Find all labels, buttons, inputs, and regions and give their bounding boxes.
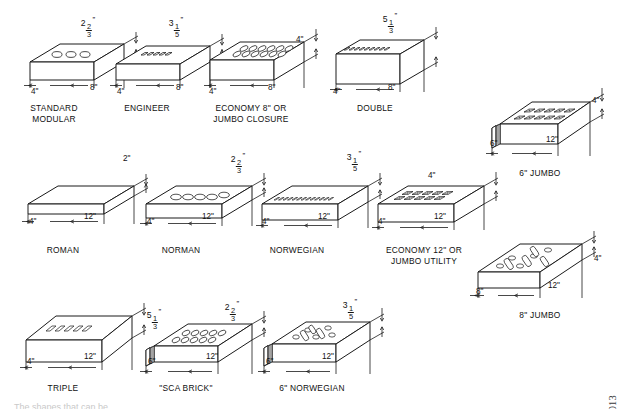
dim-triple-length: 12" xyxy=(84,353,96,361)
dim-economy-8-length: 8" xyxy=(268,84,275,92)
dim-sca-brick-height: 223” xyxy=(225,300,239,323)
dim-6-norwegian-depth: 6" xyxy=(266,358,273,366)
dim-6-jumbo-depth: 6" xyxy=(490,140,497,148)
dim-standard-modular-length: 8" xyxy=(90,84,97,92)
brick-types-figure: 223” 4" 8" STANDARD MODULAR xyxy=(0,0,624,409)
dim-double-depth: 4" xyxy=(333,88,340,96)
dim-roman-length: 12" xyxy=(84,213,96,221)
cutoff-body-text: The shapes that can be xyxy=(14,402,108,409)
dim-engineer-height: 315” xyxy=(169,16,183,39)
dim-roman-depth: 4" xyxy=(29,218,36,226)
caption-economy-8-jumbo-closure: ECONOMY 8" OR JUMBO CLOSURE xyxy=(186,103,316,125)
dim-6-norwegian-length: 12" xyxy=(322,353,334,361)
caption-norwegian: NORWEGIAN xyxy=(237,245,357,256)
dim-engineer-length: 8" xyxy=(176,84,183,92)
dim-economy-12-length: 12" xyxy=(434,213,446,221)
dim-double-length: 8" xyxy=(388,84,395,92)
dim-8-jumbo-length: 12" xyxy=(548,282,560,290)
caption-triple: TRIPLE xyxy=(8,383,118,394)
dim-norman-depth: 4" xyxy=(147,218,154,226)
dim-8-jumbo-depth: 8" xyxy=(476,288,483,296)
caption-roman: ROMAN xyxy=(8,245,118,256)
dim-norman-length: 12" xyxy=(202,213,214,221)
dim-standard-modular-depth: 4" xyxy=(31,88,38,96)
dim-economy-8-depth: 4" xyxy=(209,88,216,96)
brick-8-jumbo xyxy=(468,230,608,306)
dim-economy-8-height: 4" xyxy=(296,36,303,44)
dim-norwegian-depth: 4" xyxy=(262,218,269,226)
caption-6-norwegian: 6" NORWEGIAN xyxy=(252,383,372,394)
dim-norwegian-height: 315” xyxy=(347,150,361,173)
copyright-notice: © Cengage Learning 2013 xyxy=(600,231,620,401)
dim-6-jumbo-length: 12" xyxy=(546,136,558,144)
dim-double-height: 513” xyxy=(383,12,397,35)
dim-norwegian-length: 12" xyxy=(318,213,330,221)
dim-roman-height: 2" xyxy=(123,155,130,163)
dim-sca-brick-depth: 6" xyxy=(148,358,155,366)
dim-6-norwegian-height: 315” xyxy=(343,298,357,321)
caption-sca-brick: "SCA BRICK" xyxy=(131,383,241,394)
dim-economy-12-height: 4" xyxy=(428,172,435,180)
dim-standard-modular-height: 223” xyxy=(81,16,95,39)
dim-sca-brick-length: 12" xyxy=(206,353,218,361)
caption-8-jumbo: 8" JUMBO xyxy=(485,310,595,321)
brick-roman xyxy=(24,170,160,232)
brick-6-norwegian xyxy=(258,302,398,376)
dim-6-jumbo-height: 4" xyxy=(592,97,599,105)
dim-triple-depth: 4" xyxy=(27,358,34,366)
brick-triple xyxy=(22,300,158,376)
caption-norman: NORMAN xyxy=(126,245,236,256)
caption-double: DOUBLE xyxy=(320,103,430,114)
caption-6-jumbo: 6" JUMBO xyxy=(485,168,595,179)
dim-economy-12-depth: 4" xyxy=(378,218,385,226)
dim-norman-height: 223” xyxy=(231,152,245,175)
copyright-text: © Cengage Learning 2013 xyxy=(607,395,618,409)
dim-engineer-depth: 4" xyxy=(117,88,124,96)
